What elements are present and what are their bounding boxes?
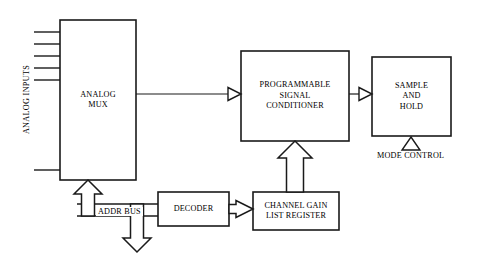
channel-gain-list-register-label: CHANNEL GAIN LIST REGISTER [253, 201, 339, 222]
channel-gain-list-register-label-wrap: CHANNEL GAIN LIST REGISTER [253, 192, 339, 230]
mux-to-conditioner-arrowhead [228, 88, 241, 101]
addr-bus-connector [74, 180, 158, 252]
conditioner-to-sample-hold-connector [349, 88, 372, 101]
register-to-conditioner-block-arrow [278, 141, 312, 192]
register-to-conditioner-connector [278, 141, 312, 192]
mux-to-conditioner-connector [136, 88, 241, 101]
conditioner-to-sample-hold-arrowhead [359, 88, 372, 101]
analog-mux-label: ANALOG MUX [60, 90, 136, 111]
mode-control-arrowhead [402, 137, 420, 150]
sample-and-hold-label-wrap: SAMPLE AND HOLD [372, 57, 451, 136]
decoder-to-register-connector [229, 201, 253, 218]
mode-control-connector [402, 137, 420, 150]
analog-inputs-label: ANALOG INPUTS [22, 50, 31, 150]
programmable-signal-conditioner-label: PROGRAMMABLE SIGNAL CONDITIONER [241, 80, 349, 111]
analog-input-lines [34, 32, 60, 170]
mode-control-label: MODE CONTROL [377, 151, 444, 160]
decoder-label: DECODER [158, 204, 229, 214]
block-diagram-canvas: ANALOG MUX PROGRAMMABLE SIGNAL CONDITION… [0, 0, 478, 259]
sample-and-hold-label: SAMPLE AND HOLD [372, 81, 451, 112]
addr-bus-label: ADDR BUS [96, 207, 143, 216]
programmable-signal-conditioner-label-wrap: PROGRAMMABLE SIGNAL CONDITIONER [241, 51, 349, 141]
decoder-to-register-block-arrow [229, 201, 253, 218]
analog-mux-label-wrap: ANALOG MUX [60, 20, 136, 180]
decoder-label-wrap: DECODER [158, 192, 229, 226]
